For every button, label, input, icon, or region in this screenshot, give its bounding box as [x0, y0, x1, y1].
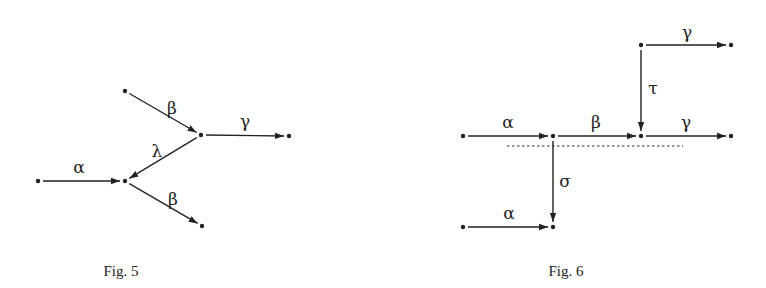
edge-label: γ — [681, 112, 691, 132]
arrow-edge-β — [129, 94, 196, 133]
figure-5: βγλαβFig. 5 — [36, 89, 291, 279]
arrow-edge-λ — [129, 138, 196, 179]
figure-caption: Fig. 5 — [103, 263, 138, 279]
node-dot — [36, 179, 40, 183]
edge-label: γ — [682, 22, 692, 42]
node-dot — [287, 134, 291, 138]
node-dot — [551, 134, 555, 138]
diagram-canvas: βγλαβFig. 5 γταβγσαFig. 6 — [0, 0, 766, 288]
edge-label: β — [168, 189, 178, 209]
node-dot — [123, 89, 127, 93]
edge-label: α — [73, 157, 85, 177]
edge-label: λ — [152, 141, 163, 161]
edge-label: β — [167, 98, 177, 118]
edge-label: γ — [240, 111, 250, 131]
edge-label: β — [591, 112, 601, 132]
node-dot — [551, 225, 555, 229]
edge-label: α — [503, 203, 515, 223]
node-dot — [123, 179, 127, 183]
node-dot — [461, 225, 465, 229]
figure-6: γταβγσαFig. 6 — [461, 22, 733, 279]
edge-label: α — [502, 112, 514, 132]
edge-label: σ — [559, 171, 571, 191]
node-dot — [729, 134, 733, 138]
node-dot — [639, 43, 643, 47]
node-dot — [639, 134, 643, 138]
arrow-edge-γ — [206, 135, 284, 136]
node-dot — [199, 133, 203, 137]
edge-label: τ — [648, 78, 657, 98]
arrow-edge-β — [129, 184, 197, 224]
node-dot — [461, 134, 465, 138]
node-dot — [200, 224, 204, 228]
node-dot — [729, 43, 733, 47]
figure-caption: Fig. 6 — [548, 263, 584, 279]
